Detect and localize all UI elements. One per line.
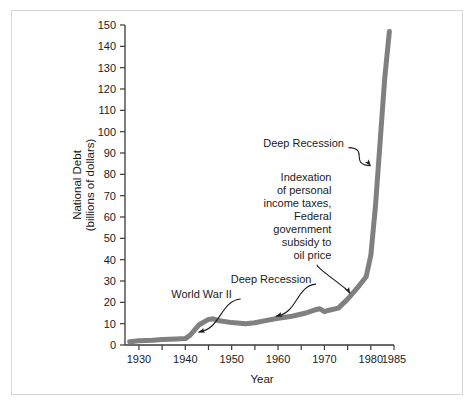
y-tick-label: 110 (98, 104, 116, 116)
annotation-text-line: of personal (277, 184, 331, 196)
x-tick-label: 1970 (312, 353, 336, 365)
x-tick-label: 1930 (127, 353, 151, 365)
annotation-text-line: government (273, 223, 331, 235)
national-debt-line-chart: 0102030405060708090100110120130140150 19… (12, 11, 462, 394)
y-tick-label: 80 (104, 168, 116, 180)
annotation-text: Deep Recession (263, 137, 344, 149)
y-tick-label: 70 (104, 190, 116, 202)
axes (125, 25, 394, 345)
y-tick-label: 40 (104, 254, 116, 266)
annotation-deep-recession-upper: Deep Recession (263, 137, 372, 168)
x-tick-label: 1980 (359, 353, 383, 365)
y-tick-label: 30 (104, 275, 116, 287)
annotation-leader-line (198, 299, 240, 332)
x-axis-title: Year (250, 373, 273, 385)
y-tick-label: 60 (104, 211, 116, 223)
annotation-text-line: Federal (294, 210, 331, 222)
y-tick-label: 130 (98, 62, 116, 74)
y-tick-label: 20 (104, 296, 116, 308)
y-tick-label: 100 (98, 126, 116, 138)
y-tick-label: 150 (98, 19, 116, 31)
x-tick-label: 1950 (219, 353, 243, 365)
y-tick-label: 90 (104, 147, 116, 159)
y-tick-label: 140 (98, 40, 116, 52)
annotation-text-line: income taxes, (264, 197, 332, 209)
y-axis-title-line1: National Debt (71, 149, 83, 219)
figure-frame: 0102030405060708090100110120130140150 19… (11, 10, 463, 395)
annotation-text-line: oil price (293, 249, 331, 261)
annotation-text-line: Indexation (281, 171, 332, 183)
y-tick-label: 50 (104, 232, 116, 244)
y-tick-label: 120 (98, 83, 116, 95)
annotation-text: World War II (171, 288, 232, 300)
y-axis-title-line2: (billions of dollars) (84, 138, 96, 231)
x-tick-label: 1960 (266, 353, 290, 365)
annotation-text: Deep Recession (231, 273, 312, 285)
x-tick-label: 1985 (382, 353, 406, 365)
y-axis-ticks: 0102030405060708090100110120130140150 (98, 19, 125, 351)
annotation-world-war-ii: World War II (171, 288, 240, 334)
annotation-leader-line (317, 265, 350, 294)
y-tick-label: 0 (110, 339, 116, 351)
x-tick-label: 1940 (173, 353, 197, 365)
national-debt-line (130, 31, 390, 341)
annotation-text-line: subsidy to (282, 236, 332, 248)
data-series-group (130, 31, 390, 341)
y-tick-label: 10 (104, 318, 116, 330)
x-axis-ticks: 1930194019501960197019801985 (127, 345, 407, 365)
y-axis-title: National Debt (billions of dollars) (71, 138, 96, 231)
